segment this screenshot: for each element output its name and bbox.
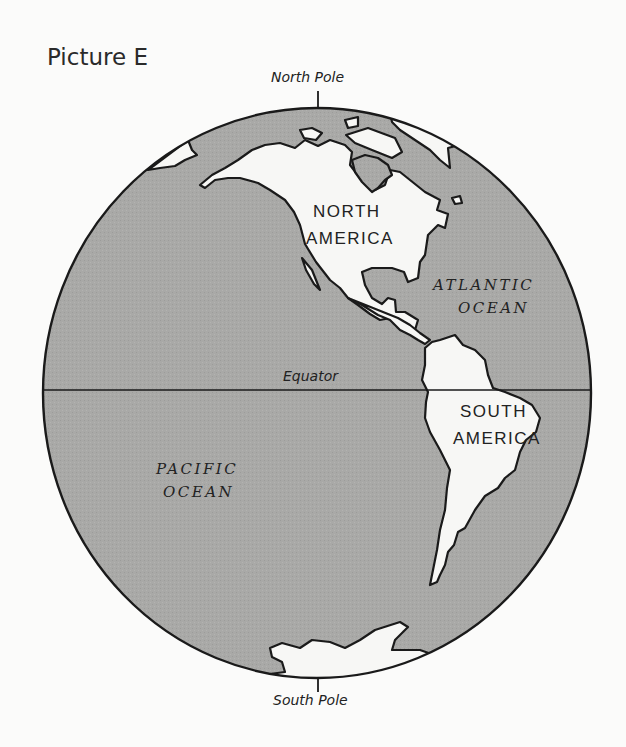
equator-label: Equator [283, 368, 339, 384]
north-america-label-line1: NORTH [313, 202, 381, 221]
south-america-label-line1: SOUTH [460, 402, 527, 421]
south-america-label-line2: AMERICA [453, 429, 541, 448]
arctic-island [345, 117, 358, 128]
newfoundland [452, 196, 462, 204]
pacific-ocean-label-line2: OCEAN [163, 483, 234, 501]
globe-map: Equator NORTH AMERICA SOUTH AMERICA ATLA… [0, 0, 626, 747]
atlantic-ocean-label-line1: ATLANTIC [431, 276, 534, 294]
pacific-ocean-label-line1: PACIFIC [155, 460, 238, 478]
north-america-label-line2: AMERICA [306, 229, 394, 248]
atlantic-ocean-label-line2: OCEAN [458, 299, 529, 317]
